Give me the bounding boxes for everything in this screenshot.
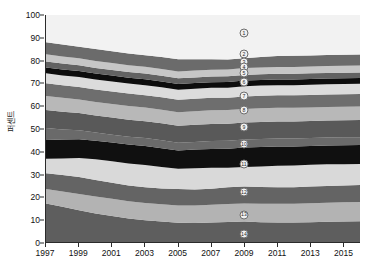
x-tick-label: 2013 — [301, 249, 320, 258]
x-tick-label: 2009 — [234, 249, 253, 258]
x-tick-mark — [211, 243, 212, 247]
y-tick-label: 100 — [16, 11, 40, 20]
x-tick-mark — [178, 243, 179, 247]
y-tick-mark — [40, 220, 44, 221]
x-tick-mark — [343, 243, 344, 247]
stacked-area-svg — [46, 15, 360, 242]
x-tick-label: 2007 — [201, 249, 220, 258]
x-tick-label: 1997 — [36, 249, 55, 258]
x-tick-label: 2005 — [168, 249, 187, 258]
x-tick-mark — [244, 243, 245, 247]
x-tick-mark — [78, 243, 79, 247]
y-tick-mark — [40, 174, 44, 175]
y-tick-mark — [40, 129, 44, 130]
x-tick-mark — [144, 243, 145, 247]
x-tick-mark — [277, 243, 278, 247]
y-tick-label: 70 — [16, 79, 40, 88]
y-tick-label: 30 — [16, 170, 40, 179]
x-axis-ticks: 1997199920012003200520072009201120132015 — [45, 243, 360, 275]
x-tick-mark — [45, 243, 46, 247]
y-tick-label: 20 — [16, 193, 40, 202]
y-tick-mark — [40, 106, 44, 107]
chart-figure: 퍼센트 0102030405060708090100 1234567891011… — [0, 0, 372, 275]
y-tick-label: 0 — [16, 239, 40, 248]
y-tick-mark — [40, 15, 44, 16]
plot-area — [45, 15, 360, 243]
y-tick-mark — [40, 60, 44, 61]
y-axis-ticks: 0102030405060708090100 — [14, 0, 40, 275]
y-tick-label: 50 — [16, 125, 40, 134]
y-tick-label: 10 — [16, 216, 40, 225]
x-tick-label: 1999 — [69, 249, 88, 258]
x-tick-label: 2015 — [334, 249, 353, 258]
y-tick-mark — [40, 151, 44, 152]
x-tick-label: 2001 — [102, 249, 121, 258]
y-tick-mark — [40, 83, 44, 84]
y-tick-label: 80 — [16, 56, 40, 65]
x-tick-label: 2011 — [268, 249, 286, 258]
x-tick-label: 2003 — [135, 249, 154, 258]
x-tick-mark — [111, 243, 112, 247]
y-tick-label: 40 — [16, 148, 40, 157]
y-tick-label: 90 — [16, 34, 40, 43]
y-tick-label: 60 — [16, 102, 40, 111]
y-tick-mark — [40, 37, 44, 38]
y-tick-mark — [40, 197, 44, 198]
x-tick-mark — [310, 243, 311, 247]
y-tick-mark — [40, 243, 44, 244]
